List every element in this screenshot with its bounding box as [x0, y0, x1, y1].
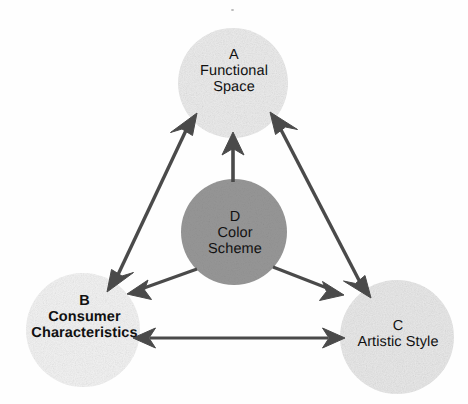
node-circle-c[interactable] — [340, 280, 454, 394]
diagram-canvas: A Functional Space B Consumer Characteri… — [0, 0, 468, 404]
node-circle-b[interactable] — [26, 273, 140, 387]
diagram-graphics — [0, 0, 468, 404]
